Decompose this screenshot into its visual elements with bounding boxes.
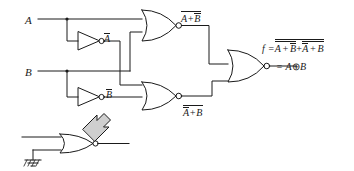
inverter-b-bubble bbox=[99, 94, 104, 99]
junction-b bbox=[65, 69, 68, 72]
wire-a-to-inverter-a bbox=[67, 19, 78, 41]
nor-gate-top-body bbox=[142, 10, 176, 41]
b-bar-text: B bbox=[106, 89, 112, 100]
inverter-b-output-label: B bbox=[106, 89, 112, 100]
input-label-b: B bbox=[25, 67, 32, 78]
xor-operand: B bbox=[300, 61, 306, 72]
xor-equivalent-expression: = A⊕B bbox=[276, 62, 306, 72]
nor-top-outer-bar: A+B bbox=[181, 11, 201, 24]
nor-gate-bottom-bubble bbox=[176, 93, 182, 99]
inverter-a-body bbox=[78, 32, 99, 50]
nor-gate-as-inverter-body bbox=[60, 134, 93, 153]
nor-bottom-output-label: A+B bbox=[183, 105, 203, 118]
input-label-a: A bbox=[25, 15, 32, 26]
f-outer-bar: A + B+A + B bbox=[275, 39, 324, 54]
a-bar-text: A bbox=[104, 33, 110, 44]
inverter-b-body bbox=[78, 88, 99, 106]
equivalence-arrow bbox=[83, 114, 111, 142]
nor-gate-as-inverter-bubble bbox=[93, 141, 98, 146]
nor-bottom-a-bar: A bbox=[183, 107, 189, 118]
output-expression: f =A + B+A + B bbox=[262, 39, 324, 54]
nor-bottom-outer-bar: A+B bbox=[183, 105, 203, 118]
f-term2-a-bar: A bbox=[302, 43, 308, 54]
f-prefix: f = bbox=[262, 43, 275, 54]
f-term1-bar: A + B bbox=[275, 41, 297, 54]
wire-norbottom-to-output bbox=[182, 81, 228, 96]
xor-symbol: ⊕ bbox=[292, 61, 300, 72]
nor-top-b-bar: B bbox=[194, 13, 200, 24]
nor-gate-output-body bbox=[228, 50, 264, 82]
inverter-a-output-label: A bbox=[104, 33, 110, 44]
logic-circuit-diagram: A B A B A+B A+B f =A + B+A + B = A⊕B bbox=[0, 0, 354, 171]
nor-gate-output-bubble bbox=[264, 63, 270, 69]
circuit-wiring bbox=[0, 0, 354, 171]
wire-abar-to-nor-bottom bbox=[104, 41, 142, 85]
wire-b-to-inverter-b bbox=[67, 71, 78, 97]
junction-a bbox=[65, 17, 68, 20]
xor-lhs: = A bbox=[276, 61, 292, 72]
nor-top-output-label: A+B bbox=[181, 11, 201, 24]
wire-nortop-to-output bbox=[182, 26, 228, 65]
f-term2-bar: A + B bbox=[302, 41, 324, 54]
wire-b-to-nor-top bbox=[130, 32, 142, 71]
nor-gate-bottom-body bbox=[142, 82, 176, 110]
